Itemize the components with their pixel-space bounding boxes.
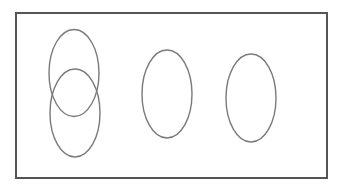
set-ellipse-overlap-top (49, 30, 99, 117)
universal-set-rectangle (16, 13, 327, 178)
venn-diagram (0, 0, 348, 187)
set-ellipse-right (226, 54, 276, 142)
set-ellipse-middle (142, 50, 192, 138)
set-ellipse-overlap-bottom (50, 69, 100, 157)
